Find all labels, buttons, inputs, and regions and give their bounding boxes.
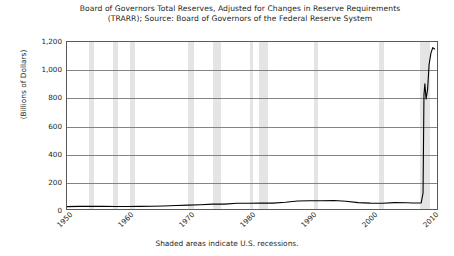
x-tick-label: 2010 (389, 210, 441, 256)
x-tick-label: 1970 (145, 210, 197, 256)
chart-subtitle: (TRARR); Source: Board of Governors of t… (40, 14, 440, 24)
x-tick-label: 1960 (84, 210, 136, 256)
chart-footnote: Shaded areas indicate U.S. recessions. (0, 239, 454, 248)
series-line-trarr (67, 48, 435, 207)
y-tick-label: 200 (26, 177, 62, 186)
series-layer (67, 42, 437, 209)
x-tick-label: 1980 (206, 210, 258, 256)
x-axis-tick-labels: 1950196019701980199020002010 (0, 210, 454, 240)
y-tick-label: 400 (26, 149, 62, 158)
plot-area (66, 41, 438, 210)
y-tick-label: 1,000 (26, 65, 62, 74)
y-tick-label: 800 (26, 93, 62, 102)
chart-title-block: Board of Governors Total Reserves, Adjus… (40, 4, 440, 25)
y-tick-label: 600 (26, 121, 62, 130)
y-tick-label: 1,200 (26, 37, 62, 46)
chart-figure: Board of Governors Total Reserves, Adjus… (0, 0, 454, 256)
chart-title: Board of Governors Total Reserves, Adjus… (40, 4, 440, 14)
x-tick-label: 1990 (267, 210, 319, 256)
x-tick-label: 2000 (328, 210, 380, 256)
